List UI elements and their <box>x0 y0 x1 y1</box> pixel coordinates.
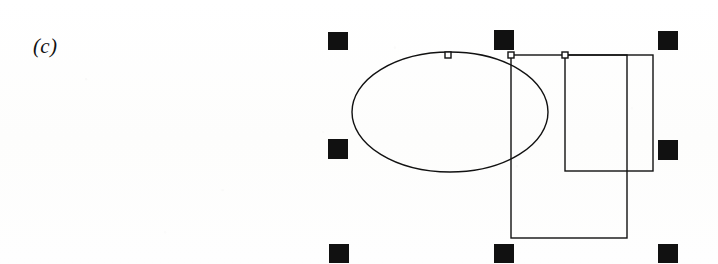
selection-handle-bottom-left[interactable] <box>329 244 349 263</box>
selection-handle-middle-left[interactable] <box>328 139 348 159</box>
vertex-marker-wide-rect-topleft[interactable] <box>562 52 568 58</box>
vertex-marker-tall-rect-topleft[interactable] <box>508 52 514 58</box>
tall-rectangle[interactable] <box>511 55 627 238</box>
selection-handle-top-right[interactable] <box>658 31 678 50</box>
figure-canvas: (c) <box>0 0 718 264</box>
vector-drawing-canvas <box>0 0 718 264</box>
selection-handle-bottom-center[interactable] <box>494 244 514 263</box>
selection-handle-top-center[interactable] <box>494 30 514 50</box>
ellipse[interactable] <box>352 52 548 172</box>
selection-handle-middle-right[interactable] <box>658 140 678 160</box>
wide-rectangle[interactable] <box>565 55 653 171</box>
selection-handle-bottom-right[interactable] <box>658 244 678 263</box>
shape-group <box>352 52 653 238</box>
selection-handle-top-left[interactable] <box>328 32 348 50</box>
vertex-marker-ellipse-top[interactable] <box>445 52 451 58</box>
